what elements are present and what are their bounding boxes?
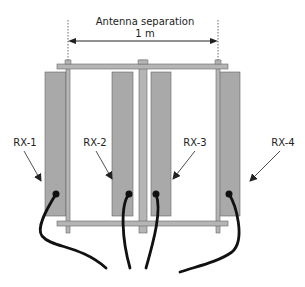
cable-rx1 <box>40 194 106 268</box>
separation-value: 1 m <box>135 28 154 39</box>
label-rx1: RX-1 <box>13 137 36 148</box>
diagram-canvas: Antenna separation 1 m RX-1 RX-2 RX-3 RX… <box>0 0 305 287</box>
pointer-arrow-rx2 <box>96 151 112 179</box>
separation-label: Antenna separation <box>96 16 194 27</box>
label-rx3: RX-3 <box>183 137 206 148</box>
antenna-array-diagram: Antenna separation 1 m RX-1 RX-2 RX-3 RX… <box>0 0 305 287</box>
left-post-cap <box>65 60 71 64</box>
top-crossbar <box>57 64 228 69</box>
right-post-cap <box>215 60 221 64</box>
arrow-left-icon <box>68 38 76 44</box>
pointer-arrow-rx4 <box>250 151 280 181</box>
pointer-arrow-rx1 <box>24 151 41 181</box>
left-post <box>66 60 70 233</box>
pointer-arrow-rx3 <box>173 151 195 179</box>
center-post-cap <box>138 60 148 64</box>
label-rx2: RX-2 <box>83 137 106 148</box>
label-rx4: RX-4 <box>271 137 294 148</box>
bottom-crossbar <box>57 221 228 226</box>
right-post <box>216 60 220 233</box>
arrow-right-icon <box>210 38 218 44</box>
center-post <box>139 60 147 233</box>
